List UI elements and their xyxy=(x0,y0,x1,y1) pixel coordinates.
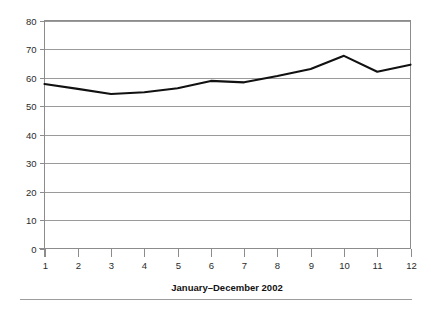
chart-background xyxy=(0,0,431,309)
x-tick-label-10: 10 xyxy=(339,260,350,271)
y-tick-label-50: 50 xyxy=(26,101,37,112)
y-tick-label-40: 40 xyxy=(26,130,37,141)
y-tick-label-70: 70 xyxy=(26,44,37,55)
x-tick-label-4: 4 xyxy=(142,260,147,271)
x-tick-label-8: 8 xyxy=(275,260,280,271)
y-tick-label-80: 80 xyxy=(26,16,37,27)
x-tick-label-1: 1 xyxy=(43,260,48,271)
x-tick-label-2: 2 xyxy=(76,260,81,271)
x-tick-label-11: 11 xyxy=(373,260,383,271)
x-tick-label-9: 9 xyxy=(309,260,314,271)
y-tick-label-10: 10 xyxy=(26,215,37,226)
x-tick-label-5: 5 xyxy=(176,260,181,271)
x-tick-label-3: 3 xyxy=(109,260,114,271)
y-tick-label-0: 0 xyxy=(31,244,36,255)
x-axis-title: January–December 2002 xyxy=(171,282,282,293)
y-tick-label-30: 30 xyxy=(26,158,37,169)
line-chart: 01020304050607080 123456789101112 Januar… xyxy=(0,0,431,309)
y-tick-label-60: 60 xyxy=(26,73,37,84)
x-tick-label-7: 7 xyxy=(242,260,247,271)
x-tick-label-6: 6 xyxy=(209,260,214,271)
y-tick-label-20: 20 xyxy=(26,187,37,198)
figure-container: 01020304050607080 123456789101112 Januar… xyxy=(0,0,431,309)
x-tick-label-12: 12 xyxy=(406,260,417,271)
